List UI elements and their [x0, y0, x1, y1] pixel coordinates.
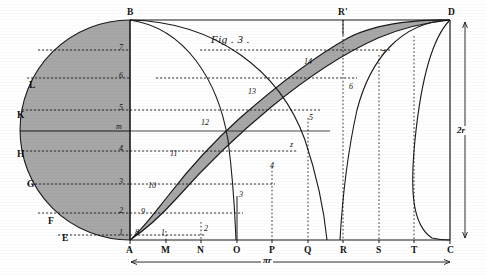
bottom-axis-ticks — [130, 240, 450, 244]
curve-label-12: 12 — [201, 119, 209, 127]
ordinate-label-3: 3 — [119, 178, 123, 186]
curve-label-5b: 5 — [309, 114, 313, 122]
shaded-semicircle — [20, 20, 130, 240]
vertical-dotted-guides — [166, 20, 414, 240]
point-label-B: B — [127, 8, 134, 18]
point-label-R: R — [340, 246, 347, 256]
locus-curves — [130, 20, 450, 240]
figure-title: Fig . 3 . — [211, 34, 250, 45]
point-label-H: H — [17, 150, 25, 160]
curve-label-1b: 1 — [161, 229, 165, 237]
bounding-rectangle — [130, 20, 450, 240]
point-label-m: m — [116, 123, 122, 131]
ordinate-label-4: 4 — [119, 145, 123, 153]
point-label-G: G — [27, 180, 35, 190]
companion-arcs — [130, 20, 450, 240]
point-label-C: C — [447, 246, 454, 256]
curve-label-11: 11 — [170, 150, 177, 158]
curve-label-4b: 4 — [270, 162, 274, 170]
point-label-N: N — [197, 246, 204, 256]
curve-label-8: 8 — [135, 229, 139, 237]
point-label-O: O — [233, 246, 241, 256]
point-label-M: M — [161, 246, 170, 256]
point-label-D: D — [448, 8, 455, 18]
dimension-arrow-horizontal — [131, 260, 450, 265]
ordinate-label-1: 1 — [119, 229, 123, 237]
dimension-label-2r: 2r — [456, 126, 466, 135]
point-label-K: K — [17, 111, 25, 121]
curve-label-13: 13 — [248, 88, 256, 96]
figure-canvas: Fig . 3 . B R' D A M N O P Q R S T C L K… — [0, 0, 486, 275]
curve-label-14: 14 — [304, 58, 312, 66]
point-label-T: T — [411, 246, 418, 256]
point-label-A: A — [126, 246, 133, 256]
ordinate-label-5: 5 — [119, 104, 123, 112]
point-label-S: S — [376, 246, 381, 256]
point-label-F: F — [48, 217, 54, 227]
curve-label-z: z — [290, 141, 293, 149]
point-label-R-prime: R' — [338, 8, 348, 18]
point-label-L: L — [29, 81, 36, 91]
curve-label-7b: 7 — [381, 50, 385, 58]
shaded-sine-lens — [130, 20, 450, 240]
ordinate-label-2: 2 — [119, 207, 123, 215]
curve-label-2b: 2 — [204, 225, 208, 233]
ordinate-label-6: 6 — [119, 72, 123, 80]
dimension-label-pi-r: πr — [261, 256, 273, 265]
curve-label-9: 9 — [141, 208, 145, 216]
ordinate-label-7: 7 — [119, 44, 123, 52]
curve-label-3b: 3 — [239, 191, 243, 199]
curve-label-6b: 6 — [349, 83, 353, 91]
curve-label-10: 10 — [148, 182, 156, 190]
point-label-Q: Q — [304, 246, 312, 256]
point-label-E: E — [62, 234, 69, 244]
